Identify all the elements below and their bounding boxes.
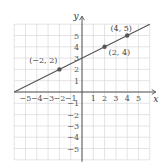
x-axis-label: x <box>153 94 158 104</box>
y-tick-label: −4 <box>67 133 79 142</box>
x-tick-label: −2 <box>54 94 66 103</box>
x-tick-label: 3 <box>113 94 118 103</box>
y-tick-label: 5 <box>74 32 79 41</box>
y-tick-label: 4 <box>74 43 79 52</box>
x-tick-label: −3 <box>42 94 54 103</box>
x-tick-label: 5 <box>136 94 141 103</box>
x-tick-label: −5 <box>20 94 32 103</box>
point-label: (4, 5) <box>110 24 132 33</box>
y-tick-label: −1 <box>67 99 79 108</box>
coordinate-graph: xy −5−4−3−2−11234554321−1−2−3−4−5 (−2, 2… <box>0 0 168 168</box>
y-tick-label: −3 <box>67 122 79 131</box>
data-points: (−2, 2)(2, 4)(4, 5) <box>29 24 132 72</box>
y-axis-label: y <box>72 11 79 21</box>
y-tick-label: −5 <box>67 145 79 154</box>
data-point <box>57 67 61 71</box>
data-point <box>102 45 106 49</box>
x-tick-label: −4 <box>31 94 43 103</box>
x-tick-label: 2 <box>102 94 107 103</box>
axes: xy <box>14 11 158 162</box>
point-label: (2, 4) <box>109 48 131 57</box>
y-tick-label: 1 <box>74 77 79 86</box>
y-tick-label: 2 <box>74 65 79 74</box>
x-tick-label: 1 <box>91 94 96 103</box>
y-tick-label: −2 <box>67 111 79 120</box>
point-label: (−2, 2) <box>29 56 57 65</box>
data-point <box>125 33 129 37</box>
x-tick-label: 4 <box>125 94 130 103</box>
